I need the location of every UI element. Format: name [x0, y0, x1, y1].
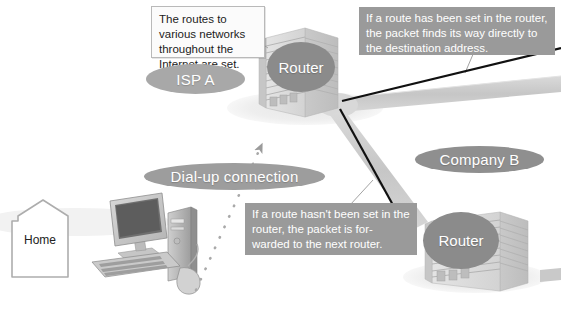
- desktop-computer-illustration: [92, 193, 200, 294]
- backbone-pipe-right: [318, 76, 561, 117]
- callout-isp-routes: The routes to various networks throughou…: [151, 6, 265, 58]
- callout-route-set: If a route has been set in the router, t…: [359, 7, 555, 55]
- routing-diagram: The routes to various networks throughou…: [0, 0, 561, 312]
- label-home: Home: [12, 230, 68, 250]
- label-isp-a: ISP A: [146, 64, 245, 94]
- label-company-b: Company B: [415, 146, 544, 173]
- label-dialup-connection: Dial-up connection: [144, 163, 325, 190]
- router-badge-isp: Router: [267, 42, 335, 92]
- router-badge-company: Router: [423, 212, 499, 269]
- callout-route-not-set: If a route hasn't been set in the router…: [245, 203, 417, 255]
